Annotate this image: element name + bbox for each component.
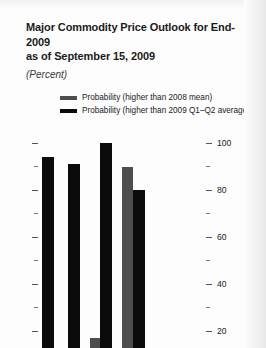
- y-axis-left-tick-20: [22, 326, 38, 336]
- y-axis-tick-50: [206, 256, 210, 266]
- y-axis-left-tick-90: [22, 162, 38, 172]
- bar-black-3: [100, 143, 112, 348]
- y-axis-tick-70: [206, 209, 210, 219]
- tick-dash-icon: [206, 307, 210, 308]
- bar-black-1: [42, 157, 54, 348]
- bar-gray-4: [122, 167, 133, 348]
- y-axis-tick-label: 20: [217, 327, 227, 336]
- y-axis-tick-100: 100: [206, 138, 231, 148]
- tick-dash-icon: [206, 190, 212, 191]
- tick-dash-icon: [206, 166, 210, 167]
- y-axis-tick-90: [206, 162, 210, 172]
- y-axis-tick-60: 60: [206, 232, 227, 242]
- y-axis-tick-80: 80: [206, 185, 227, 195]
- tick-dash-icon: [206, 331, 212, 332]
- tick-dash-icon: [206, 260, 210, 261]
- y-axis-right: 10080604020: [206, 130, 252, 348]
- y-axis-tick-label: 40: [217, 280, 227, 289]
- plot-area: 10080604020: [0, 0, 266, 348]
- bar-group: [38, 130, 158, 348]
- y-axis-tick-30: [206, 303, 210, 313]
- y-axis-tick-20: 20: [206, 326, 227, 336]
- y-axis-left-ticks: [22, 130, 38, 348]
- bar-gray-3: [90, 338, 100, 348]
- y-axis-left-tick-60: [22, 232, 38, 242]
- y-axis-tick-label: 100: [217, 139, 231, 148]
- bar-black-4: [133, 190, 145, 348]
- y-axis-left-tick-30: [22, 303, 38, 313]
- y-axis-left-tick-70: [22, 209, 38, 219]
- y-axis-left-tick-50: [22, 256, 38, 266]
- y-axis-tick-40: 40: [206, 279, 227, 289]
- y-axis-tick-label: 80: [217, 186, 227, 195]
- y-axis-left-tick-100: [22, 138, 38, 148]
- y-axis-left-tick-80: [22, 185, 38, 195]
- tick-dash-icon: [206, 284, 212, 285]
- chart-page: Major Commodity Price Outlook for End-20…: [0, 0, 266, 348]
- y-axis-tick-label: 60: [217, 233, 227, 242]
- tick-dash-icon: [206, 143, 212, 144]
- tick-dash-icon: [206, 237, 212, 238]
- bar-black-2: [68, 164, 80, 348]
- y-axis-left-tick-40: [22, 279, 38, 289]
- tick-dash-icon: [206, 213, 210, 214]
